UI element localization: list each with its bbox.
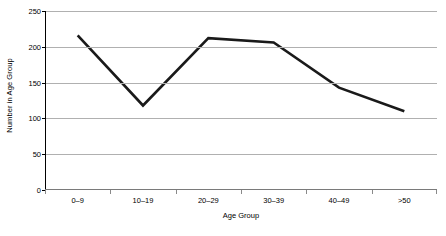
x-tick-label: 30–39 (263, 196, 284, 205)
x-tick-label: 40–49 (329, 196, 350, 205)
x-tick-label: 0–9 (71, 196, 84, 205)
y-tick-label: 100 (28, 114, 41, 123)
y-tick-mark (42, 47, 46, 48)
gridline (45, 47, 437, 48)
y-tick-label: 50 (33, 150, 41, 159)
gridline (45, 154, 437, 155)
x-tick-mark (436, 190, 437, 194)
x-axis-title-label: Age Group (223, 211, 259, 220)
y-tick-mark (42, 154, 46, 155)
y-axis-title-label: Number in Age Group (5, 58, 14, 132)
y-tick-label: 250 (28, 7, 41, 16)
y-axis-tick-labels: 050100150200250 (18, 0, 45, 195)
gridline (45, 11, 437, 12)
x-tick-label: 20–29 (198, 196, 219, 205)
x-axis-tick-marks (45, 190, 437, 195)
y-tick-mark (42, 83, 46, 84)
y-tick-label: 150 (28, 78, 41, 87)
x-tick-mark (372, 190, 373, 194)
x-tick-mark (241, 190, 242, 194)
x-tick-label: >50 (398, 196, 411, 205)
x-tick-mark (176, 190, 177, 194)
x-axis-tick-labels: 0–910–1920–2930–3940–49>50 (45, 196, 437, 208)
data-series-line (45, 11, 437, 190)
x-tick-mark (306, 190, 307, 194)
gridline (45, 83, 437, 84)
gridline (45, 118, 437, 119)
x-tick-mark (110, 190, 111, 194)
line-chart-figure: Number in Age Group 050100150200250 0–91… (0, 0, 446, 236)
y-axis-title: Number in Age Group (0, 0, 18, 190)
y-tick-mark (42, 118, 46, 119)
x-axis-title: Age Group (45, 211, 437, 220)
x-tick-mark (45, 190, 46, 194)
plot-area (45, 11, 437, 190)
y-tick-mark (42, 11, 46, 12)
y-tick-label: 200 (28, 42, 41, 51)
y-tick-label: 0 (37, 186, 41, 195)
x-tick-label: 10–19 (133, 196, 154, 205)
